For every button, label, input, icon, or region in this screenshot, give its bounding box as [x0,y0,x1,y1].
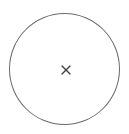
close-button[interactable]: Close [9,13,120,125]
close-icon [61,65,71,75]
stage: Close [0,0,129,134]
close-button-label: Close [10,14,11,15]
